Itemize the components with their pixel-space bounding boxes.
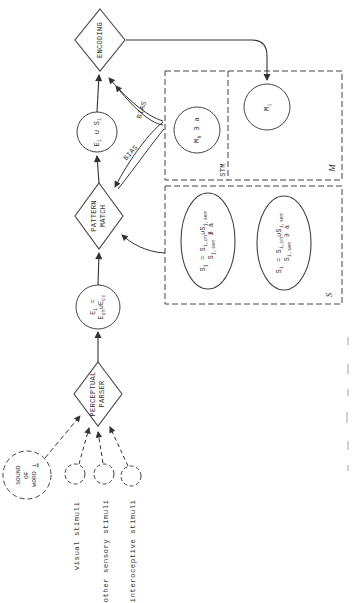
m-box-label: M <box>327 164 338 172</box>
stm-box-label: STM <box>219 163 228 177</box>
interoceptive-stimuli-label: interoceptive stimuli <box>129 500 138 603</box>
arrow-eus-to-encoding <box>97 75 99 112</box>
arrow-encoding-to-m-i <box>126 40 267 80</box>
interoceptive-stimuli-circle <box>121 466 141 486</box>
arrow-interoceptive-to-parser <box>110 427 128 466</box>
visual-stimuli-circle <box>65 464 85 484</box>
arrow-other-to-parser <box>98 432 103 463</box>
other-sensory-stimuli-label: other sensory stimuli <box>102 500 111 603</box>
m-h-label: Mh ∋ a <box>193 117 202 143</box>
visual-stimuli-label: visual stimuli <box>73 502 82 571</box>
m-i-label: Mi <box>263 103 272 111</box>
s-j-set-label: Sj = Si,ph∪Sj,sem Sj,sem ∌ a <box>200 211 216 271</box>
s-box-label: S <box>324 293 335 298</box>
arrow-visual-to-parser <box>79 428 89 464</box>
arrow-s-box-to-pattern-match <box>122 235 165 253</box>
diagram-linework <box>0 0 353 603</box>
figure-canvas: ENCODING Ei ∪ Si PATTERN MATCH Ei = Eph∪… <box>0 0 353 603</box>
arrow-pattern-match-to-eus <box>97 156 99 183</box>
cropped-caption-marks <box>346 337 349 471</box>
e-union-s-label: Ei ∪ Si <box>93 117 102 146</box>
s-i-set-label: Si = Si,ph∪Si,sem Si,sem ∋ a <box>276 213 292 273</box>
perceptual-parser-label: PERCEPTUAL PARSER <box>89 371 107 416</box>
pattern-match-label: PATTERN MATCH <box>90 200 108 232</box>
sound-of-word-label: SOUND OF WORD i <box>15 463 38 487</box>
arrow-e-to-pattern-match <box>98 253 99 285</box>
encoding-label: ENCODING <box>96 22 105 58</box>
arrow-sound-to-parser <box>45 416 80 458</box>
e-def-label: Ei = Eph∪Ecx <box>90 294 106 319</box>
other-sensory-stimuli-circle <box>94 464 114 484</box>
